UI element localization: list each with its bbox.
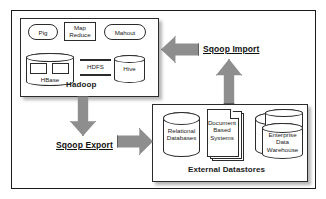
hadoop-node-hdfs-label: HDFS — [78, 63, 113, 70]
hadoop-node-mahout-label: Mahout — [104, 29, 146, 36]
hdfs-rule-top — [80, 59, 111, 61]
hadoop-node-hbase-label: HBase — [26, 76, 74, 83]
datastore-node-enterprise-warehouse-label: Enterprise Data Warehouse — [262, 131, 303, 153]
document-fold-corner-icon — [230, 109, 239, 119]
datastores-group-label: External Datastores — [188, 165, 265, 174]
sqoop-architecture-diagram: Pig Map Reduce Mahout HBase HDFS Hive Ha… — [0, 0, 326, 199]
hadoop-node-pig-label: Pig — [28, 29, 58, 36]
hbase-inner-block-right — [52, 63, 69, 74]
hadoop-node-mapreduce-label: Map Reduce — [64, 24, 96, 39]
sqoop-export-label: Sqoop Export — [56, 140, 113, 150]
datastore-node-document-systems-label: Document Based Systems — [207, 119, 237, 141]
datastore-node-relational-databases-label: Relational Databases — [163, 127, 200, 142]
hdfs-rule-bottom — [80, 74, 111, 76]
hbase-inner-block-left — [30, 63, 47, 74]
sqoop-import-label: Sqoop Import — [203, 44, 259, 54]
hadoop-node-hive-label: Hive — [114, 65, 145, 72]
